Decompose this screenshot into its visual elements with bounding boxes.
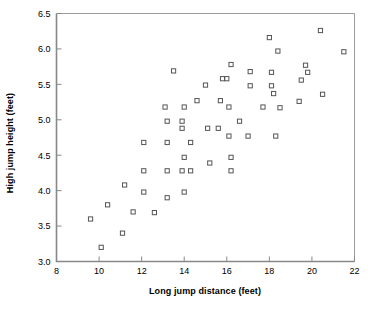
data-point bbox=[299, 78, 303, 82]
svg-text:20: 20 bbox=[307, 266, 317, 276]
data-point bbox=[320, 92, 324, 96]
data-point bbox=[303, 63, 307, 67]
data-point bbox=[152, 211, 156, 215]
data-point bbox=[269, 70, 273, 74]
plot-canvas: 810121416182022 3.03.54.04.55.05.56.06.5 bbox=[0, 0, 374, 312]
x-axis-title: Long jump distance (feet) bbox=[56, 286, 354, 296]
svg-text:5.0: 5.0 bbox=[38, 115, 51, 125]
data-point bbox=[203, 83, 207, 87]
data-point bbox=[248, 70, 252, 74]
data-point bbox=[182, 155, 186, 159]
data-point bbox=[99, 245, 103, 249]
data-point bbox=[216, 126, 220, 130]
svg-text:4.5: 4.5 bbox=[38, 151, 51, 161]
data-point-markers bbox=[88, 28, 346, 249]
data-point bbox=[269, 84, 273, 88]
data-point bbox=[171, 69, 175, 73]
svg-text:3.5: 3.5 bbox=[38, 221, 51, 231]
data-point bbox=[180, 169, 184, 173]
data-point bbox=[261, 105, 265, 109]
data-point bbox=[165, 169, 169, 173]
data-point bbox=[318, 28, 322, 32]
svg-text:4.0: 4.0 bbox=[38, 186, 51, 196]
data-point bbox=[306, 70, 310, 74]
svg-text:22: 22 bbox=[349, 266, 359, 276]
data-point bbox=[278, 106, 282, 110]
data-point bbox=[189, 169, 193, 173]
svg-text:5.5: 5.5 bbox=[38, 80, 51, 90]
svg-text:14: 14 bbox=[179, 266, 189, 276]
data-point bbox=[142, 140, 146, 144]
data-point bbox=[229, 62, 233, 66]
data-point bbox=[180, 126, 184, 130]
data-point bbox=[195, 99, 199, 103]
data-point bbox=[218, 99, 222, 103]
data-point bbox=[189, 140, 193, 144]
data-point bbox=[131, 210, 135, 214]
data-point bbox=[274, 134, 278, 138]
scatter-plot-figure: High jump height (feet) 810121416182022 … bbox=[0, 0, 374, 312]
data-point bbox=[165, 119, 169, 123]
data-point bbox=[229, 155, 233, 159]
data-point bbox=[142, 169, 146, 173]
data-point bbox=[227, 105, 231, 109]
data-point bbox=[220, 77, 224, 81]
data-point bbox=[267, 35, 271, 39]
axis-frame bbox=[57, 14, 355, 262]
data-point bbox=[248, 84, 252, 88]
y-axis-ticks: 3.03.54.04.55.05.56.06.5 bbox=[38, 9, 62, 267]
data-point bbox=[206, 126, 210, 130]
data-point bbox=[225, 77, 229, 81]
data-point bbox=[120, 231, 124, 235]
data-point bbox=[229, 169, 233, 173]
svg-text:6.5: 6.5 bbox=[38, 9, 51, 19]
data-point bbox=[180, 119, 184, 123]
svg-text:3.0: 3.0 bbox=[38, 257, 51, 267]
data-point bbox=[105, 203, 109, 207]
data-point bbox=[123, 183, 127, 187]
data-point bbox=[246, 134, 250, 138]
data-point bbox=[208, 161, 212, 165]
data-point bbox=[237, 119, 241, 123]
data-point bbox=[165, 140, 169, 144]
svg-text:8: 8 bbox=[54, 266, 59, 276]
data-point bbox=[227, 134, 231, 138]
svg-text:16: 16 bbox=[222, 266, 232, 276]
svg-text:12: 12 bbox=[137, 266, 147, 276]
data-point bbox=[297, 99, 301, 103]
svg-text:18: 18 bbox=[264, 266, 274, 276]
data-point bbox=[88, 217, 92, 221]
svg-text:6.0: 6.0 bbox=[38, 44, 51, 54]
data-point bbox=[182, 190, 186, 194]
x-axis-ticks: 810121416182022 bbox=[54, 257, 360, 276]
data-point bbox=[276, 49, 280, 53]
data-point bbox=[163, 105, 167, 109]
data-point bbox=[165, 196, 169, 200]
svg-text:10: 10 bbox=[94, 266, 104, 276]
data-point bbox=[272, 91, 276, 95]
data-point bbox=[342, 50, 346, 54]
data-point bbox=[182, 105, 186, 109]
data-point bbox=[142, 190, 146, 194]
